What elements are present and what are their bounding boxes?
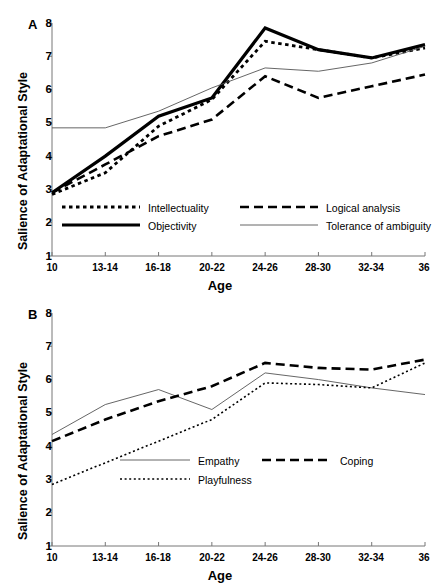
panel-b-ytick-8: 8 bbox=[36, 307, 52, 319]
series-line-empathy bbox=[52, 373, 425, 435]
panel-a-xtick-2: 16-18 bbox=[145, 262, 171, 273]
legend-b-label-empathy: Empathy bbox=[198, 455, 239, 467]
panel-b-y-axis-label: Salience of Adaptational Style bbox=[16, 362, 30, 540]
panel-b-ytick-1: 1 bbox=[36, 540, 52, 552]
panel-b-xtick-0: 10 bbox=[46, 552, 57, 563]
panel-b-xtick-3: 20-22 bbox=[199, 552, 225, 563]
panel-b-ytick-6: 6 bbox=[36, 373, 52, 385]
panel-b-xtick-6: 32-34 bbox=[358, 552, 384, 563]
legend-a-label-objectivity: Objectivity bbox=[148, 220, 196, 232]
panel-b-x-axis-label: Age bbox=[0, 568, 440, 583]
legend-a-label-logical-analysis: Logical analysis bbox=[326, 202, 400, 214]
panel-a-ytick-2: 2 bbox=[36, 216, 52, 228]
panel-b-ytick-5: 5 bbox=[36, 406, 52, 418]
panel-b-ytick-2: 2 bbox=[36, 506, 52, 518]
legend-b-label-coping: Coping bbox=[340, 455, 373, 467]
series-line-objectivity bbox=[52, 28, 425, 193]
panel-b-plot bbox=[0, 290, 440, 569]
panel-b-xtick-2: 16-18 bbox=[145, 552, 171, 563]
panel-a-ytick-1: 1 bbox=[36, 250, 52, 262]
series-line-logical-analysis bbox=[52, 75, 425, 193]
legend-a-label-intellectuality: Intellectuality bbox=[148, 202, 209, 214]
panel-a-xtick-0: 10 bbox=[46, 262, 57, 273]
panel-b-ytick-3: 3 bbox=[36, 473, 52, 485]
panel-a: A Salience of Adaptational Style 8 7 6 5… bbox=[0, 0, 440, 290]
panel-a-xtick-6: 32-34 bbox=[358, 262, 384, 273]
panel-b-xtick-5: 28-30 bbox=[305, 552, 331, 563]
panel-b-xtick-1: 13-14 bbox=[92, 552, 118, 563]
panel-a-ytick-4: 4 bbox=[36, 150, 52, 162]
panel-a-ytick-3: 3 bbox=[36, 183, 52, 195]
panel-a-xtick-5: 28-30 bbox=[305, 262, 331, 273]
legend-b-label-playfulness: Playfulness bbox=[198, 474, 252, 486]
panel-b-xtick-4: 24-26 bbox=[252, 552, 278, 563]
panel-b: B Salience of Adaptational Style 8 7 6 5… bbox=[0, 290, 440, 569]
panel-a-plot bbox=[0, 0, 440, 290]
panel-a-xtick-4: 24-26 bbox=[252, 262, 278, 273]
panel-a-ytick-8: 8 bbox=[36, 17, 52, 29]
legend-a-label-tolerance-of-ambiguity: Tolerance of ambiguity bbox=[326, 220, 431, 232]
panel-a-ytick-6: 6 bbox=[36, 83, 52, 95]
series-line-coping bbox=[52, 360, 425, 442]
panel-a-xtick-3: 20-22 bbox=[199, 262, 225, 273]
panel-b-xtick-7: 36 bbox=[418, 552, 429, 563]
panel-a-ytick-5: 5 bbox=[36, 116, 52, 128]
panel-a-ytick-7: 7 bbox=[36, 50, 52, 62]
panel-a-y-axis-label: Salience of Adaptational Style bbox=[16, 72, 30, 250]
panel-b-ytick-7: 7 bbox=[36, 340, 52, 352]
panel-a-xtick-1: 13-14 bbox=[92, 262, 118, 273]
panel-b-ytick-4: 4 bbox=[36, 440, 52, 452]
panel-a-xtick-7: 36 bbox=[418, 262, 429, 273]
